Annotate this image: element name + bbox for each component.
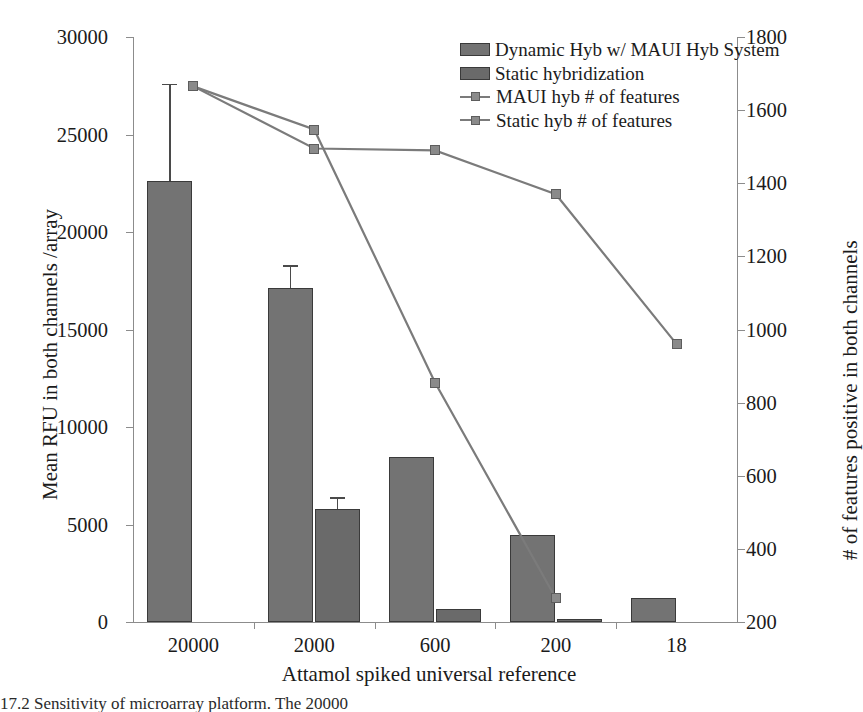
legend-label-maui-features: MAUI hyb # of features — [494, 85, 680, 109]
legend-line-square-icon-maui — [460, 90, 490, 103]
legend-line-square-icon-static — [460, 114, 490, 127]
legend-label-dynamic: Dynamic Hyb w/ MAUI Hyb System — [493, 38, 779, 62]
line-marker-square-icon — [551, 189, 561, 199]
legend-item-dynamic-hyb: Dynamic Hyb w/ MAUI Hyb System — [460, 38, 779, 62]
x-axis-title: Attamol spiked universal reference — [0, 662, 858, 687]
line-marker-square-icon — [309, 125, 319, 135]
line-marker-square-icon — [551, 593, 561, 603]
line-marker-square-icon — [309, 144, 319, 154]
line-marker-square-icon — [188, 81, 198, 91]
y-axis-right-title: # of features positive in both channels — [838, 240, 863, 560]
legend-label-static-features: Static hyb # of features — [494, 109, 672, 133]
legend-item-maui-features: MAUI hyb # of features — [460, 85, 779, 109]
line-series-static — [193, 86, 555, 598]
legend-swatch-icon-static — [460, 67, 490, 80]
line-marker-square-icon — [430, 378, 440, 388]
legend-item-static-features: Static hyb # of features — [460, 109, 779, 133]
legend-label-static: Static hybridization — [493, 62, 644, 86]
legend-swatch-icon-dynamic — [460, 43, 490, 56]
legend-item-static-hyb: Static hybridization — [460, 62, 779, 86]
chart-legend: Dynamic Hyb w/ MAUI Hyb System Static hy… — [460, 38, 779, 132]
figure-caption: 17.2 Sensitivity of microarray platform.… — [0, 694, 858, 712]
line-marker-square-icon — [672, 339, 682, 349]
line-marker-square-icon — [430, 145, 440, 155]
y-axis-left-title: Mean RFU in both channels /array — [38, 209, 63, 500]
